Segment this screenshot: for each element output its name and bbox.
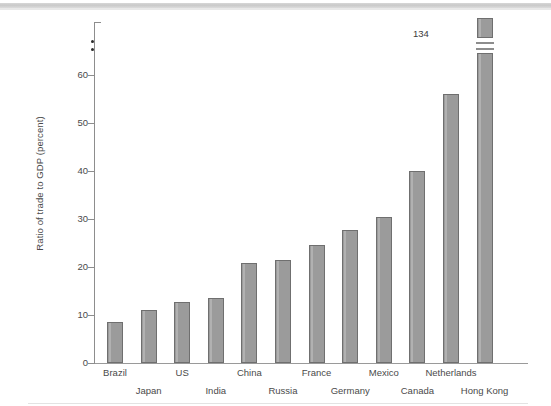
bar-india <box>208 298 224 363</box>
bar-highlight <box>277 261 279 362</box>
y-tick-label-wrap-50: 50 <box>60 118 88 128</box>
x-axis-label-netherlands: Netherlands <box>406 367 496 378</box>
bar-hong-kong <box>477 53 493 363</box>
bar-highlight <box>109 323 111 362</box>
y-tick-label-20: 20 <box>66 262 88 271</box>
bar-highlight <box>344 231 346 362</box>
bar-highlight <box>311 246 313 362</box>
y-tick-label-10: 10 <box>66 310 88 319</box>
x-axis-line <box>94 363 528 364</box>
y-axis-top-cap <box>94 22 101 23</box>
bar-hong-kong-top-cap <box>477 18 493 38</box>
y-tick-label-60: 60 <box>66 70 88 79</box>
y-tick-60 <box>88 75 95 76</box>
y-tick-label-40: 40 <box>66 166 88 175</box>
y-tick-0 <box>88 363 95 364</box>
y-tick-10 <box>88 315 95 316</box>
y-tick-label-wrap-60: 60 <box>60 70 88 80</box>
y-tick-20 <box>88 267 95 268</box>
y-tick-label-wrap-30: 30 <box>60 214 88 224</box>
bar-brazil <box>107 322 123 363</box>
y-axis-break-dot-upper <box>91 40 94 43</box>
hong-kong-value-label: 134 <box>413 28 429 39</box>
y-axis-line <box>94 22 95 364</box>
x-axis-label-hong-kong: Hong Kong <box>440 385 530 396</box>
bar-highlight <box>479 19 481 37</box>
y-tick-label-wrap-40: 40 <box>60 166 88 176</box>
bar-break-mark-1 <box>476 42 494 44</box>
figure-page: 0 10 20 30 40 50 60 Ratio of trade to GD… <box>0 0 551 406</box>
y-tick-label-0: 0 <box>66 358 88 367</box>
bar-highlight <box>378 218 380 362</box>
bar-highlight <box>445 95 447 362</box>
bar-break-mark-2 <box>476 48 494 50</box>
y-axis-title: Ratio of trade to GDP (percent) <box>34 99 45 269</box>
bar-highlight <box>243 264 245 362</box>
bar-chart: 0 10 20 30 40 50 60 Ratio of trade to GD… <box>0 0 551 406</box>
bar-us <box>174 302 190 363</box>
y-axis-break-dot-lower <box>91 48 94 51</box>
bar-netherlands <box>443 94 459 363</box>
bar-japan <box>141 310 157 363</box>
y-tick-label-50: 50 <box>66 118 88 127</box>
y-tick-40 <box>88 171 95 172</box>
bar-germany <box>342 230 358 363</box>
bar-mexico <box>376 217 392 363</box>
bar-highlight <box>210 299 212 362</box>
y-tick-label-wrap-20: 20 <box>60 262 88 272</box>
bar-canada <box>409 171 425 363</box>
y-tick-label-30: 30 <box>66 214 88 223</box>
bar-france <box>309 245 325 363</box>
bar-russia <box>275 260 291 363</box>
y-tick-label-wrap-10: 10 <box>60 310 88 320</box>
bar-highlight <box>143 311 145 362</box>
bar-highlight <box>176 303 178 362</box>
y-tick-50 <box>88 123 95 124</box>
y-tick-30 <box>88 219 95 220</box>
bar-china <box>241 263 257 363</box>
bar-highlight <box>411 172 413 362</box>
bar-highlight <box>479 54 481 362</box>
